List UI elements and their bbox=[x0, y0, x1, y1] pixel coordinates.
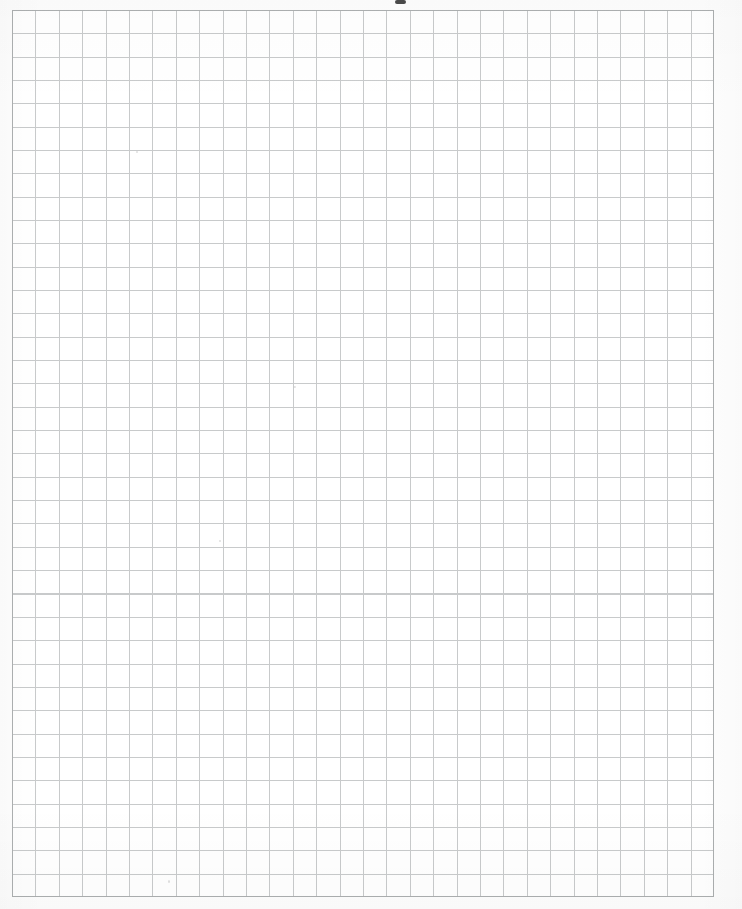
grid-lines bbox=[12, 10, 714, 897]
grid-right-edge-line bbox=[713, 10, 714, 897]
grid-bottom-edge-line bbox=[12, 896, 714, 897]
grid-sheet bbox=[12, 10, 714, 897]
scan-speck bbox=[219, 540, 221, 542]
scan-speck bbox=[168, 880, 170, 883]
scan-speck bbox=[293, 386, 296, 388]
scan-speck bbox=[136, 151, 138, 153]
scan-smudge-artifact bbox=[395, 0, 406, 4]
graph-paper-page bbox=[0, 0, 742, 909]
